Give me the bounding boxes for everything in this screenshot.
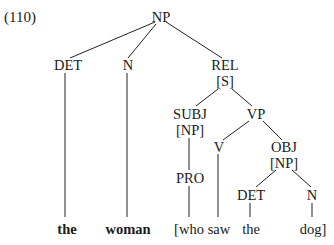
word-who: [who [174,222,204,237]
word-the-obj: the [242,222,260,237]
node-pro: PRO [176,171,204,186]
node-obj-np: [NP] [270,156,298,171]
node-rel-s: [S] [216,74,234,89]
node-subj-np: [NP] [176,123,204,138]
node-n-obj: N [307,188,317,203]
node-det-obj: DET [237,188,265,203]
node-v: V [214,140,224,155]
node-obj: OBJ [271,140,297,155]
node-subj: SUBJ [173,107,207,122]
word-dog: dog] [300,222,327,237]
word-woman: woman [105,222,150,237]
node-np-root: NP [152,10,171,25]
node-vp: VP [247,107,266,122]
node-n: N [123,58,133,73]
word-saw: saw [208,222,231,237]
node-det: DET [54,58,82,73]
tree-edges [0,0,334,245]
word-the: the [57,222,76,237]
node-rel: REL [211,58,238,73]
